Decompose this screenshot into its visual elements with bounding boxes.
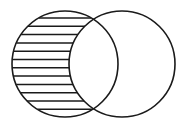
venn-diagram-figure: [0, 0, 188, 127]
venn-diagram-svg: [0, 0, 188, 127]
